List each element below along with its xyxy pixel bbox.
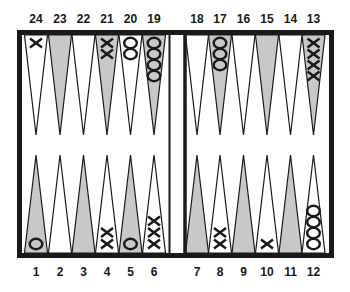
backgammon-board	[0, 0, 350, 292]
